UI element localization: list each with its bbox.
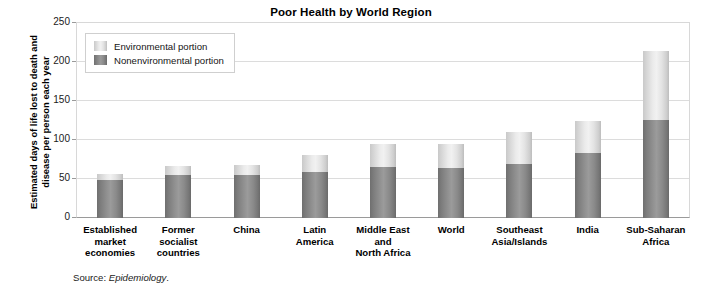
bar-segment-nonenvironmental xyxy=(575,153,601,218)
x-axis-label-line: countries xyxy=(136,247,220,259)
bar-sub-saharan-africa[interactable] xyxy=(643,51,669,218)
x-axis-label-line: Sub-Saharan xyxy=(614,224,698,236)
bar-southeast-asia-islands[interactable] xyxy=(506,132,532,218)
bar-segment-nonenvironmental xyxy=(643,120,669,218)
bar-china[interactable] xyxy=(234,165,260,218)
bar-segment-environmental xyxy=(438,144,464,168)
y-axis-title: Estimated days of life lost to death and… xyxy=(23,20,57,225)
bar-world[interactable] xyxy=(438,144,464,218)
x-axis-label-line: Asia/Islands xyxy=(477,236,561,248)
bar-middle-east-and-north-africa[interactable] xyxy=(370,144,396,218)
y-tick-label-100: 100 xyxy=(40,133,70,144)
source-note: Source: Epidemiology. xyxy=(73,272,169,283)
legend-label-environmental: Environmental portion xyxy=(114,41,207,52)
legend-item-nonenvironmental: Nonenvironmental portion xyxy=(94,53,224,67)
legend-swatch-environmental-icon xyxy=(94,41,107,51)
bar-former-socialist-countries[interactable] xyxy=(165,166,191,218)
chart-figure: Poor Health by World Region Estimated da… xyxy=(0,0,702,291)
y-tick-label-200: 200 xyxy=(40,55,70,66)
source-suffix: . xyxy=(166,272,169,283)
source-publication: Epidemiology xyxy=(109,272,167,283)
x-axis-label-line: socialist xyxy=(136,236,220,248)
bar-segment-nonenvironmental xyxy=(506,164,532,218)
source-prefix: Source: xyxy=(73,272,109,283)
bar-segment-nonenvironmental xyxy=(165,175,191,218)
bar-segment-nonenvironmental xyxy=(370,167,396,218)
bar-segment-nonenvironmental xyxy=(234,175,260,218)
bar-india[interactable] xyxy=(575,121,601,218)
legend-label-nonenvironmental: Nonenvironmental portion xyxy=(114,55,224,66)
y-tick-label-50: 50 xyxy=(40,172,70,183)
y-tick-label-150: 150 xyxy=(40,94,70,105)
legend-item-environmental: Environmental portion xyxy=(94,39,224,53)
x-axis-label-line: and xyxy=(341,236,425,248)
bar-segment-environmental xyxy=(165,166,191,175)
y-tick-label-250: 250 xyxy=(40,16,70,27)
x-axis-label-sub-saharan-africa: Sub-SaharanAfrica xyxy=(614,224,698,247)
bar-latin-america[interactable] xyxy=(302,155,328,218)
bar-segment-environmental xyxy=(643,51,669,120)
legend-swatch-nonenvironmental-icon xyxy=(94,55,107,65)
x-axis-label-line: North Africa xyxy=(341,247,425,259)
bar-segment-nonenvironmental xyxy=(438,168,464,218)
bar-segment-environmental xyxy=(370,144,396,168)
bar-segment-nonenvironmental xyxy=(97,180,123,218)
x-axis-label-line: Africa xyxy=(614,236,698,248)
bar-segment-environmental xyxy=(302,155,328,172)
x-axis-labels: EstablishedmarketeconomiesFormersocialis… xyxy=(76,224,690,268)
bar-segment-nonenvironmental xyxy=(302,172,328,218)
bar-established-market-economies[interactable] xyxy=(97,174,123,218)
chart-legend: Environmental portion Nonenvironmental p… xyxy=(85,33,235,73)
bar-segment-environmental xyxy=(575,121,601,153)
y-tick-label-0: 0 xyxy=(40,211,70,222)
bar-segment-environmental xyxy=(234,165,260,175)
chart-title: Poor Health by World Region xyxy=(0,6,702,18)
bar-segment-environmental xyxy=(506,132,532,164)
